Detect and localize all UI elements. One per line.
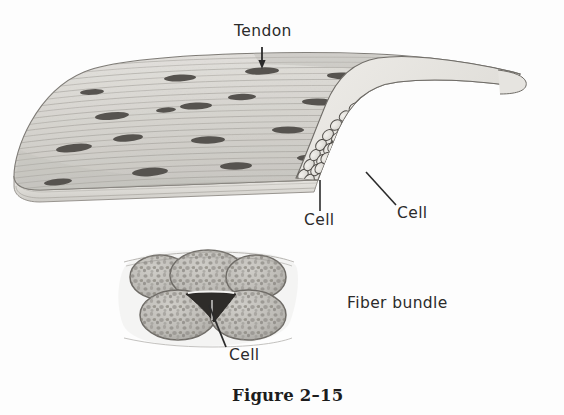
- label-cell-surface: Cell: [304, 213, 335, 229]
- tendon-figure-illustration: [0, 0, 564, 415]
- cell-edge-leader-line: [366, 172, 396, 205]
- figure-container: Tendon Cell Cell Fiber bundle Cell Figur…: [0, 0, 564, 415]
- label-cell-edge: Cell: [397, 206, 428, 222]
- fiber-bundle-cross-section-illustration: [118, 248, 298, 347]
- label-fiber-bundle: Fiber bundle: [347, 296, 448, 312]
- figure-caption: Figure 2–15: [232, 388, 343, 405]
- label-tendon: Tendon: [234, 24, 292, 40]
- tendon-slab-illustration: [0, 40, 564, 214]
- label-cell-section: Cell: [229, 348, 260, 364]
